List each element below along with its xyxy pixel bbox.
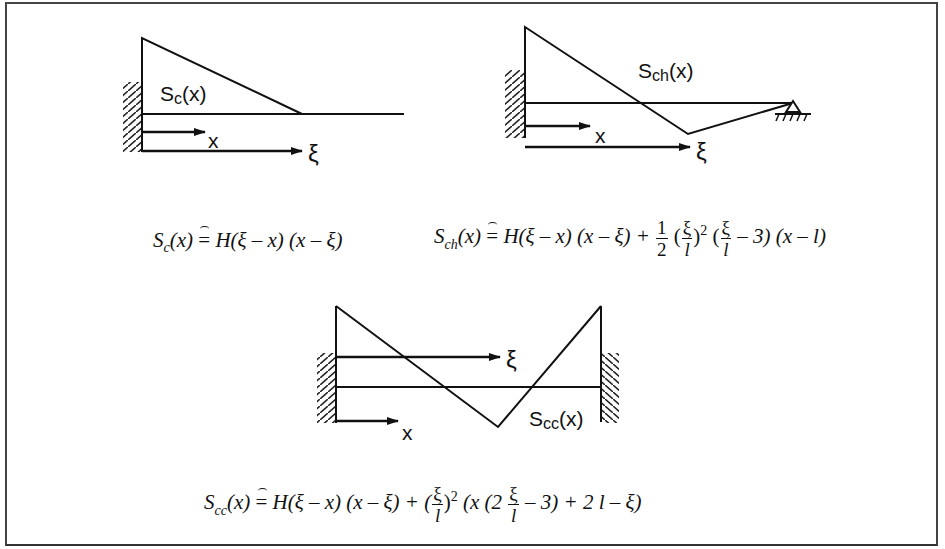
xi-label: ξ <box>506 346 517 373</box>
clamped-support-right-icon <box>601 306 619 423</box>
equation-sc: Sc(x) = H(ξ – x) (x – ξ) <box>153 228 342 256</box>
xi-label: ξ <box>696 138 707 165</box>
equation-sch: Sch(x) = H(ξ – x) (x – ξ) + 12 (ξl)2 (ξl… <box>434 218 826 259</box>
curve-label-sc: Sc(x) <box>160 82 207 107</box>
diagram-canvas: Sc(x) x ξ Sch(x) x ξ <box>0 0 945 549</box>
curve-label-scc: Scc(x) <box>529 407 584 432</box>
x-label: x <box>402 421 413 444</box>
clamped-hinged-panel <box>505 27 811 147</box>
beam-diagrams: Sc(x) x ξ Sch(x) x ξ <box>0 0 945 549</box>
x-label: x <box>208 129 219 152</box>
equation-scc: Scc(x) = H(ξ – x) (x – ξ) + (ξl)2 (x (2 … <box>204 484 642 525</box>
xi-label: ξ <box>308 140 319 167</box>
clamped-support-icon <box>505 70 525 138</box>
curve-label-sch: Sch(x) <box>638 59 693 84</box>
x-label: x <box>595 124 606 147</box>
clamped-support-left-icon <box>317 306 336 423</box>
clamped-support-icon <box>123 80 142 152</box>
